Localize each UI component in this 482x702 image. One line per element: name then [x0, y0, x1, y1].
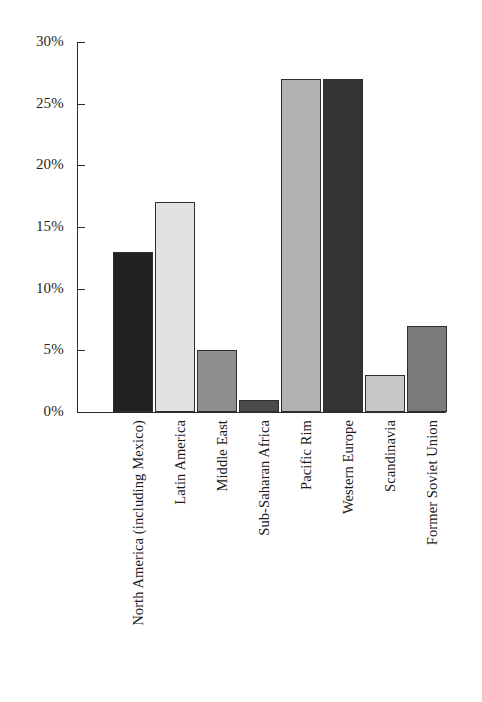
y-axis-tick-label: 20%: [0, 157, 64, 172]
y-axis-tick-label: 5%: [0, 342, 64, 357]
x-axis-category-label: Former Soviet Union: [420, 420, 435, 545]
y-axis-tick-label: 15%: [0, 219, 64, 234]
bar: [407, 326, 447, 412]
x-axis-category-label-text: Pacific Rim: [299, 420, 314, 490]
x-axis-category-label-text: North America (including Mexico): [131, 420, 146, 626]
bar: [197, 350, 237, 412]
x-axis-category-label: Scandinavia: [378, 420, 393, 492]
plot-area: [77, 42, 445, 412]
bar: [239, 400, 279, 412]
x-axis-category-label-text: Scandinavia: [383, 420, 398, 492]
bar: [323, 79, 363, 412]
y-axis-tick-label: 10%: [0, 281, 64, 296]
bar: [113, 252, 153, 412]
x-axis-category-label: Latin America: [168, 420, 183, 505]
bar: [365, 375, 405, 412]
x-axis-category-label-text: Latin America: [173, 420, 188, 505]
x-axis-category-label-text: Middle East: [215, 420, 230, 492]
x-axis-category-label: Middle East: [210, 420, 225, 492]
x-axis-category-label-text: Western Europe: [341, 420, 356, 514]
y-axis-tick: [77, 412, 85, 413]
bar: [155, 202, 195, 412]
y-axis-tick-label: 0%: [0, 404, 64, 419]
x-axis-category-label: Western Europe: [336, 420, 351, 514]
bar: [281, 79, 321, 412]
x-axis-category-label: Pacific Rim: [294, 420, 309, 490]
x-axis-category-label: North America (including Mexico): [126, 420, 141, 626]
bar-chart: 30%25%20%15%10%5%0% North America (inclu…: [0, 0, 482, 702]
y-axis-tick-label: 30%: [0, 34, 64, 49]
x-axis-category-label: Sub-Saharan Africa: [252, 420, 267, 536]
x-axis-category-label-text: Former Soviet Union: [425, 420, 440, 545]
x-axis-category-label-text: Sub-Saharan Africa: [257, 420, 272, 536]
x-axis-line: [77, 412, 446, 413]
y-axis-tick-label: 25%: [0, 96, 64, 111]
